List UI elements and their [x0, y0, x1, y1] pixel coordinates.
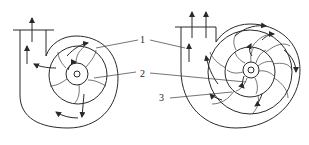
label-1: 1 [140, 34, 145, 45]
shaft [248, 67, 254, 73]
flow-arrows-left [27, 18, 88, 118]
diffuser-outer-ring [208, 30, 292, 114]
pump-diagram: 1 2 3 [0, 0, 309, 145]
label-2: 2 [140, 68, 145, 79]
volute-pump [13, 18, 118, 128]
shaft [74, 71, 80, 77]
flow-arrows-right [189, 12, 296, 106]
label-3: 3 [159, 92, 164, 103]
impeller-hub [243, 62, 259, 78]
impeller-blades [50, 47, 106, 104]
volute-casing [13, 30, 118, 128]
diffuser-pump [175, 12, 300, 128]
